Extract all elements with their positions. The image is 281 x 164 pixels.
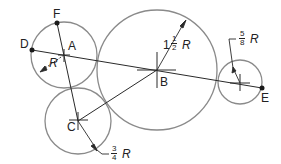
dimension-e-unit: R [250,33,259,45]
tangent-circles-diagram [0,0,281,164]
point-d-dot [30,48,35,53]
point-label-e: E [261,92,269,104]
dimension-b-fraction: 1 2 [171,35,177,52]
radius-leader-c [78,121,109,154]
center-mark-b [137,52,176,88]
point-label-f: F [53,8,60,20]
point-e-dot [260,86,265,91]
point-label-c: C [67,121,76,133]
dimension-a-unit: R [49,57,58,69]
dimension-b-unit: R [182,39,191,51]
dimension-b-denominator: 2 [171,44,177,52]
dimension-e-fraction: 5 8 [239,30,245,47]
line-c-b [78,70,157,121]
line-f-c [57,23,78,121]
point-label-d: D [20,38,29,50]
dimension-c-fraction: 3 4 [111,145,117,162]
point-label-b: B [160,76,168,88]
dimension-c-unit: R [122,148,131,160]
dimension-e-denominator: 8 [239,39,245,47]
point-label-a: A [68,40,76,52]
dimension-b-whole: 1 [163,39,170,51]
dimension-c-denominator: 4 [111,154,117,162]
point-f-dot [55,21,60,26]
